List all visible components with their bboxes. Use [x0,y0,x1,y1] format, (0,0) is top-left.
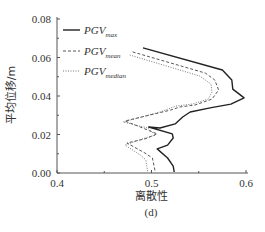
line-chart: 0.000.020.040.060.08 0.40.50.6 PGVmaxPGV… [0,0,265,232]
y-tick-label: 0.06 [32,52,52,64]
y-ticks: 0.000.020.040.060.08 [32,13,60,179]
series-pgv-max [143,48,244,172]
y-tick-label: 0.00 [32,167,52,179]
y-tick-label: 0.04 [32,90,52,102]
data-series [123,48,244,172]
y-tick-label: 0.08 [32,13,52,25]
y-axis-label: 平均位移/m [4,66,18,124]
legend-label-median: PGVmedian [83,65,126,80]
axes: 0.000.020.040.060.08 0.40.50.6 [32,13,254,189]
x-tick-label: 0.6 [239,177,253,189]
figure-caption: (d) [145,206,158,219]
x-axis-label: 离散性 [135,189,168,203]
series-pgv-median [123,55,212,172]
legend: PGVmaxPGVmeanPGVmedian [63,24,126,80]
x-tick-label: 0.5 [145,177,159,189]
y-tick-label: 0.02 [32,129,51,141]
legend-label-mean: PGVmean [83,45,121,60]
x-tick-label: 0.4 [50,177,64,189]
legend-label-max: PGVmax [83,24,118,39]
